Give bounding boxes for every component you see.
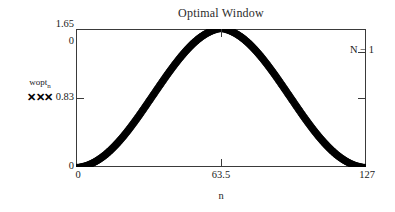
chart-root: Optimal Window 1.65 0 0.83 0 0 63.5 127 … (0, 0, 395, 212)
legend: woptn ✕✕✕ (14, 78, 66, 103)
x-axis-label-min: 0 (70, 169, 86, 180)
legend-series-name: woptn (14, 78, 66, 91)
right-axis-annotation-n-minus-1: N − 1 (350, 44, 390, 55)
y-axis-label-max: 1.65 (36, 18, 74, 29)
optimal-window-curve (76, 29, 366, 167)
top-axis-tick-mid (221, 29, 222, 37)
right-axis-tick-mid (358, 98, 366, 99)
y-axis-label-top-inner: 0 (52, 35, 74, 46)
x-axis-label-mid: 63.5 (204, 169, 238, 180)
curve-layer (76, 29, 366, 167)
x-axis-title: n (204, 190, 238, 201)
x-axis-label-max: 127 (354, 169, 380, 180)
legend-marker-glyphs: ✕✕✕ (14, 91, 66, 103)
x-axis-tick-mid (221, 159, 222, 167)
legend-series-name-text: wopt (29, 77, 47, 87)
legend-series-subscript: n (47, 82, 51, 90)
y-axis-tick-mid (76, 98, 84, 99)
chart-title: Optimal Window (76, 6, 366, 21)
